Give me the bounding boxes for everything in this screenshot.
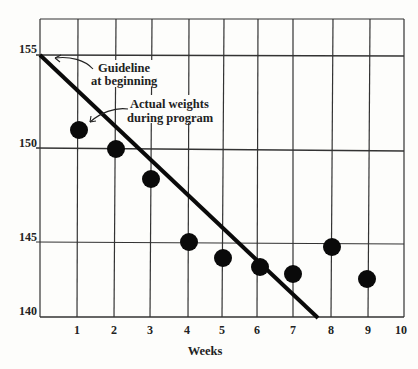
guideline-label-line1: Guideline [98,61,151,75]
weight-chart: Guideline at beginning Actual weights du… [0,0,418,369]
gridline-week-8 [331,19,333,317]
data-point-week-1 [70,121,88,139]
data-point-week-7 [284,265,302,283]
y-tick-140: 140 [19,304,37,318]
data-point-week-3 [142,170,160,188]
data-point-week-6 [251,258,269,276]
x-tick-9: 9 [365,323,371,337]
y-tick-145: 145 [19,230,37,244]
gridline-145 [36,242,404,244]
x-tick-6: 6 [254,323,260,337]
actual-label-line2: during program [127,111,214,125]
gridline-155 [36,55,404,56]
gridline-week-5 [222,19,224,317]
x-tick-7: 7 [290,323,296,337]
y-tick-155: 155 [19,42,37,56]
data-point-week-2 [107,140,125,158]
x-tick-3: 3 [147,323,153,337]
data-point-week-8 [323,238,341,256]
y-tick-150: 150 [19,136,37,150]
guideline-arrow-icon [55,57,93,69]
x-tick-10: 10 [395,323,407,337]
x-tick-2: 2 [111,323,117,337]
guideline-line [40,55,318,318]
x-tick-8: 8 [328,323,334,337]
gridline-150 [36,148,404,151]
gridline-week-1 [77,19,78,317]
data-point-week-9 [358,270,376,288]
data-point-week-5 [214,249,232,267]
x-tick-4: 4 [184,323,190,337]
x-tick-5: 5 [219,323,225,337]
guideline-label-line2: at beginning [91,74,158,88]
x-tick-1: 1 [74,323,80,337]
guideline-arrowhead-icon [55,55,61,62]
data-point-week-4 [180,233,198,251]
gridline-week-4 [188,19,189,317]
x-axis-title: Weeks [188,344,223,358]
actual-label-line1: Actual weights [130,97,209,111]
